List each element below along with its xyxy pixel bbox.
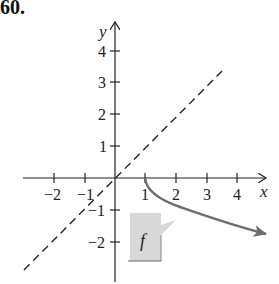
y-tick-label: −2 [88, 234, 105, 251]
x-tick-label: 2 [172, 186, 180, 203]
x-tick-label: 4 [233, 186, 241, 203]
y-tick-label: 2 [98, 106, 106, 123]
x-tick-label: −2 [44, 186, 61, 203]
x-tick-label: 3 [203, 186, 211, 203]
y-axis-label: y [97, 22, 107, 41]
f-label-callout: f [128, 213, 176, 261]
y-tick-label: 4 [98, 43, 106, 60]
y-tick-label: −1 [88, 202, 105, 219]
function-graph: −2 −1 1 2 3 4 4 3 2 1 −1 −2 y x f [0, 0, 279, 284]
y-tick-label: 3 [98, 74, 106, 91]
y-tick-label: 1 [99, 138, 107, 155]
x-axis-label: x [259, 182, 268, 201]
x-tick-label: −1 [77, 186, 94, 203]
identity-line [24, 71, 222, 270]
